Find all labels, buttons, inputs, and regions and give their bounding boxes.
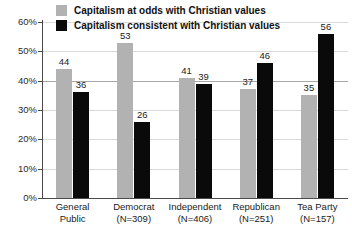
bar-value-label-2-1: 39 — [190, 72, 218, 82]
x-category-label-0: GeneralPublic — [42, 201, 103, 225]
bar-1-0[interactable] — [117, 43, 133, 198]
x-category-line1-0: General — [56, 201, 90, 212]
bar-4-1[interactable] — [318, 34, 334, 198]
x-category-line1-2: Independent — [169, 201, 222, 212]
bar-2-0[interactable] — [179, 78, 195, 198]
x-category-line2-0: Public — [42, 213, 103, 225]
bar-chart: 0%10%20%30%40%50%60% 4436532641393746355… — [0, 0, 352, 234]
y-tick-label-20%: 20% — [0, 134, 37, 144]
legend: Capitalism at odds with Christian values… — [56, 4, 280, 34]
x-category-line2-3: (N=251) — [226, 213, 287, 225]
bar-2-1[interactable] — [196, 84, 212, 198]
y-axis-line — [42, 20, 43, 199]
legend-label-at-odds: Capitalism at odds with Christian values — [74, 5, 266, 16]
y-tick-label-40%: 40% — [0, 76, 37, 86]
bar-value-label-3-1: 46 — [251, 51, 279, 61]
bar-value-label-1-1: 26 — [128, 110, 156, 120]
y-tick-label-30%: 30% — [0, 105, 37, 115]
bar-0-1[interactable] — [73, 92, 89, 198]
bar-3-0[interactable] — [240, 89, 256, 198]
x-category-line1-4: Tea Party — [297, 201, 337, 212]
x-category-label-4: Tea Party(N=157) — [287, 201, 348, 225]
legend-swatch-icon-black — [56, 20, 67, 31]
y-tick-label-10%: 10% — [0, 164, 37, 174]
bar-3-1[interactable] — [257, 63, 273, 198]
legend-item-consistent[interactable]: Capitalism consistent with Christian val… — [56, 19, 280, 32]
x-category-line1-3: Republican — [232, 201, 280, 212]
legend-label-consistent: Capitalism consistent with Christian val… — [74, 20, 280, 31]
x-category-line2-2: (N=406) — [164, 213, 225, 225]
y-tick-label-50%: 50% — [0, 46, 37, 56]
legend-item-at-odds[interactable]: Capitalism at odds with Christian values — [56, 4, 280, 17]
x-axis-line — [42, 198, 348, 199]
bar-value-label-0-0: 44 — [50, 57, 78, 67]
x-category-label-1: Democrat(N=309) — [103, 201, 164, 225]
y-tick-label-0%: 0% — [0, 193, 37, 203]
gridline-50% — [43, 51, 348, 52]
x-category-line1-1: Democrat — [113, 201, 154, 212]
legend-swatch-icon-gray — [56, 5, 67, 16]
x-category-line2-4: (N=157) — [287, 213, 348, 225]
x-category-label-3: Republican(N=251) — [226, 201, 287, 225]
x-category-line2-1: (N=309) — [103, 213, 164, 225]
bar-1-1[interactable] — [134, 122, 150, 198]
y-tick-label-60%: 60% — [0, 17, 37, 27]
x-category-label-2: Independent(N=406) — [164, 201, 225, 225]
bar-4-0[interactable] — [301, 95, 317, 198]
bar-value-label-4-1: 56 — [312, 22, 340, 32]
bar-value-label-0-1: 36 — [67, 80, 95, 90]
